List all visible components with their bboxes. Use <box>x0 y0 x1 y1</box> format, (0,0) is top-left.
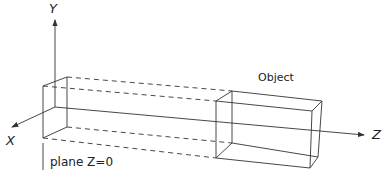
projection-lines <box>43 77 232 158</box>
z-axis <box>55 107 364 135</box>
z-axis-label: Z <box>372 128 381 141</box>
object-label: Object <box>258 72 294 83</box>
x-axis-label: X <box>6 134 15 147</box>
x-axis <box>12 107 55 127</box>
y-axis-label: Y <box>49 2 57 15</box>
plane-label: plane Z=0 <box>50 156 113 168</box>
